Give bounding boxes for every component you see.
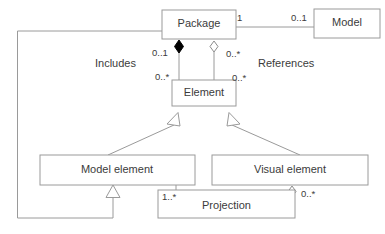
multiplicity-package-model-target: 0..1 (291, 12, 307, 23)
multiplicity-includes-package-end: 0..1 (152, 47, 168, 58)
diagram-canvas: Package (left routed path) --> Element -… (0, 0, 385, 234)
class-label-visual-element: Visual element (254, 163, 326, 175)
multiplicity-includes-element-end: 0..* (155, 71, 170, 82)
multiplicity-projection-visual-element-end: 0..* (301, 188, 316, 199)
multiplicity-references-package-end: 0..* (226, 48, 241, 59)
class-label-model-element: Model element (81, 163, 153, 175)
uml-class-diagram: Package (left routed path) --> Element -… (0, 0, 385, 234)
class-label-projection: Projection (202, 199, 251, 211)
multiplicity-references-element-end: 0..* (232, 72, 247, 83)
connector-model-element-to-package (18, 31, 163, 218)
connector-generalization-model-element (108, 125, 174, 155)
class-label-element: Element (184, 86, 224, 98)
multiplicity-projection-model-element-end: 1..* (162, 191, 177, 202)
class-label-model: Model (332, 16, 362, 28)
aggregation-diamond-references-icon (210, 41, 218, 52)
multiplicity-package-model-source: 1 (237, 12, 242, 23)
composition-diamond-icon (175, 40, 184, 53)
class-label-package: Package (178, 17, 221, 29)
association-label-includes: Includes (95, 57, 136, 69)
generalization-triangle-visual-element-icon (227, 113, 240, 127)
association-label-references: References (258, 57, 315, 69)
generalization-triangle-model-element-icon (167, 113, 180, 127)
connector-generalization-visual-element (232, 125, 300, 155)
generalization-triangle-package-icon (106, 185, 120, 198)
